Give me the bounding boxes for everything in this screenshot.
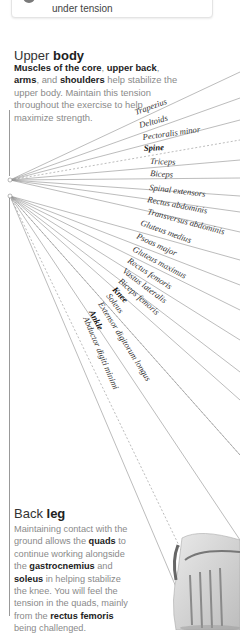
title-bold: leg: [47, 506, 66, 521]
muscle-label: Deltoids: [137, 113, 169, 131]
muscle-label: Spine: [144, 142, 165, 153]
leader-line: [10, 140, 240, 180]
back-leg-description: Maintaining contact with the ground allo…: [14, 523, 134, 635]
highlighted-muscle: quads: [89, 536, 116, 546]
title-light: Back: [14, 506, 47, 521]
leader-line: [10, 160, 240, 180]
leader-line: [10, 178, 240, 180]
leader-line: [10, 98, 240, 180]
highlighted-muscle: soleus: [14, 574, 43, 584]
back-leg-title: Back leg: [14, 506, 65, 521]
muscle-label: Triceps: [150, 156, 176, 167]
leader-line: [10, 120, 240, 180]
leader-line: [10, 72, 240, 180]
leader-line: [10, 196, 240, 540]
highlighted-muscle: rectus femoris: [50, 611, 113, 621]
description-text: and: [95, 561, 113, 571]
leader-line: [10, 196, 240, 455]
highlighted-muscle: gastrocnemius: [29, 561, 94, 571]
anchor-point-icon: [8, 178, 12, 182]
muscle-label: Biceps: [150, 168, 174, 180]
anchor-point-icon: [8, 194, 12, 198]
description-text: being challenged.: [14, 623, 86, 633]
